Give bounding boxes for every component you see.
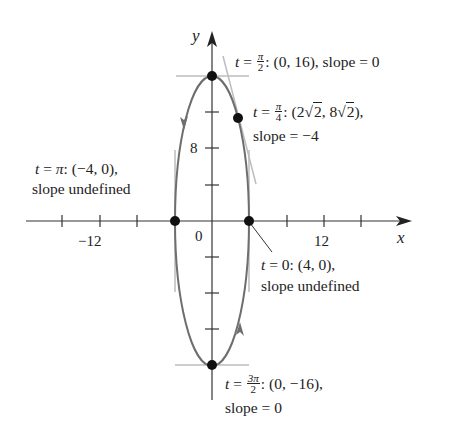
label-t-pi-slope: slope undefined <box>32 180 131 197</box>
point-t-3pi-over-2 <box>207 360 217 370</box>
x-tick-label-12: 12 <box>314 233 329 250</box>
y-tick-label-8: 8 <box>190 140 198 157</box>
label-t-pi-over-4-slope: slope = −4 <box>253 127 319 144</box>
point-t-pi <box>170 216 180 226</box>
x-tick-label-neg12: −12 <box>78 233 101 250</box>
leader-line-t0 <box>250 223 272 252</box>
direction-arrow-down-icon <box>180 116 188 130</box>
y-axis <box>205 40 219 400</box>
label-t-pi-over-2: t = π2: (0, 16), slope = 0 <box>235 53 380 74</box>
label-t-0: t = 0: (4, 0), <box>261 256 335 273</box>
point-t-0 <box>244 216 254 226</box>
ellipse-diagram <box>0 0 457 438</box>
x-axis-label: x <box>397 229 405 246</box>
origin-label: 0 <box>195 228 203 245</box>
label-t-pi: t = π: (−4, 0), <box>35 160 118 177</box>
x-axis <box>26 215 404 227</box>
tangent-lines <box>175 56 256 365</box>
point-t-pi-over-2 <box>207 71 217 81</box>
y-axis-label: y <box>192 27 200 44</box>
label-t-3pi-over-2-slope: slope = 0 <box>225 399 282 416</box>
label-t-3pi-over-2: t = 3π2: (0, −16), <box>225 375 323 396</box>
label-t-0-slope: slope undefined <box>261 277 360 294</box>
label-t-pi-over-4: t = π4: (2√2, 8√2), <box>253 103 364 124</box>
point-t-pi-over-4 <box>233 113 243 123</box>
